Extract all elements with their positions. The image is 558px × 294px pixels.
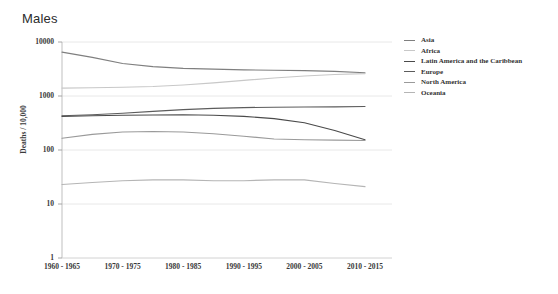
legend-item-label: Latin America and the Caribbean [421, 56, 522, 66]
chart-legend: AsiaAfricaLatin America and the Caribbea… [404, 35, 554, 98]
y-tick-label: 100 [10, 145, 54, 154]
y-tick-label: 1000 [10, 91, 54, 100]
y-tick-label: 10000 [10, 37, 54, 46]
legend-color-swatch-icon [404, 61, 415, 62]
series-line [62, 74, 365, 89]
legend-item[interactable]: Africa [404, 46, 554, 57]
series-line [62, 106, 365, 115]
legend-item[interactable]: Latin America and the Caribbean [404, 56, 554, 67]
legend-item[interactable]: Oceania [404, 88, 554, 99]
legend-item-label: Europe [421, 67, 443, 77]
legend-color-swatch-icon [404, 50, 415, 51]
legend-item-label: Asia [421, 35, 434, 45]
series-line [62, 115, 365, 140]
legend-item[interactable]: Asia [404, 35, 554, 46]
series-line [62, 180, 365, 187]
legend-color-swatch-icon [404, 82, 415, 83]
legend-item-label: Africa [421, 46, 440, 56]
y-tick-label: 10 [10, 199, 54, 208]
legend-item[interactable]: North America [404, 77, 554, 88]
legend-item-label: Oceania [421, 88, 446, 98]
legend-color-swatch-icon [404, 71, 415, 72]
chart-figure: Males Deaths / 10,000 100001000100101 19… [0, 0, 558, 294]
plot-svg [0, 0, 400, 294]
series-line [62, 52, 365, 73]
y-tick-label: 1 [10, 253, 54, 262]
x-tick-label: 2010 - 2015 [325, 262, 405, 271]
series-line [62, 132, 365, 141]
plot-area: Deaths / 10,000 100001000100101 1960 - 1… [0, 0, 400, 294]
tick-marks-group [58, 42, 62, 258]
legend-item[interactable]: Europe [404, 67, 554, 78]
legend-color-swatch-icon [404, 40, 415, 41]
legend-item-label: North America [421, 77, 466, 87]
legend-color-swatch-icon [404, 92, 415, 93]
series-lines-group [62, 52, 365, 187]
